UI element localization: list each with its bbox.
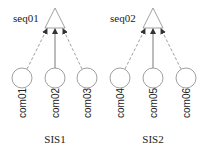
component-label: com06 [181,88,192,118]
edge-com06-seq02 [161,29,181,69]
component-node-com01[interactable] [12,68,32,88]
component-label: com03 [82,88,93,118]
edge-com04-seq02 [125,29,145,69]
edge-com01-seq01 [27,29,47,69]
group-sis1: seq01 com01 com02 com03 SIS1 [12,8,97,145]
component-node-com02[interactable] [45,68,65,88]
component-label: com05 [148,88,159,118]
component-node-com04[interactable] [110,68,130,88]
component-node-com03[interactable] [77,68,97,88]
sequence-label: seq01 [13,12,39,24]
component-node-com05[interactable] [143,68,163,88]
sequence-node-seq01[interactable] [45,8,65,28]
sequence-node-seq02[interactable] [143,8,163,28]
component-label: com01 [17,88,28,118]
component-label: com04 [115,88,126,118]
group-label: SIS2 [142,133,163,145]
sequence-label: seq02 [110,12,136,24]
group-sis2: seq02 com04 com05 com06 SIS2 [110,8,196,145]
group-label: SIS1 [44,133,65,145]
edge-com03-seq01 [63,29,82,69]
component-node-com06[interactable] [176,68,196,88]
diagram-canvas: seq01 com01 com02 com03 SIS1 seq02 com04… [0,0,206,153]
component-label: com02 [50,88,61,118]
